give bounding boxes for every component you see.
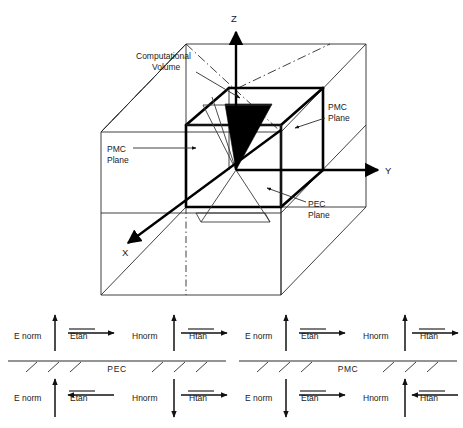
boundary-surface-label: PEC bbox=[107, 364, 126, 374]
symmetry-plane-diagram: Z Y X Computational Volume PMC Plane PMC… bbox=[0, 0, 463, 428]
pmc-plane-left-label-line1: PMC bbox=[107, 144, 126, 154]
boundary-hatch-mark bbox=[26, 362, 37, 372]
pec-boundary-panel: PECE normEtanHnormHtanE normEtanHnormHta… bbox=[8, 315, 227, 417]
field-label-hnorm: Hnorm bbox=[132, 393, 158, 403]
outer-box-edge-br bbox=[281, 207, 366, 295]
field-label-hnorm: Hnorm bbox=[363, 331, 389, 341]
lower-cone-left-edge bbox=[201, 170, 236, 222]
pmc-plane-left-label-line2: Plane bbox=[107, 155, 129, 165]
pmc-plane-right-label-line2: Plane bbox=[328, 113, 350, 123]
axis-x bbox=[128, 130, 281, 243]
field-label-enorm: E norm bbox=[14, 393, 41, 403]
axis-label-z: Z bbox=[231, 13, 237, 24]
boundary-hatch-mark bbox=[70, 362, 81, 372]
boundary-hatch-mark bbox=[152, 362, 163, 372]
field-row-above: E normEtanHnormHtan bbox=[245, 315, 458, 351]
field-label-enorm: E norm bbox=[14, 331, 41, 341]
lower-cone-right-edge bbox=[236, 170, 270, 222]
field-label-enorm: E norm bbox=[245, 393, 272, 403]
bicone-source bbox=[196, 97, 272, 222]
figure-root: Z Y X Computational Volume PMC Plane PMC… bbox=[0, 0, 463, 428]
inner-cube-edge-top-right bbox=[281, 88, 323, 125]
axis-label-x: X bbox=[122, 247, 129, 258]
pec-plane-label-line2: Plane bbox=[308, 210, 330, 220]
source-filled-cone-quadrant bbox=[225, 104, 272, 170]
boundary-hatch-mark bbox=[196, 362, 207, 372]
pmc-boundary-panel: PMCE normEtanHnormHtanE normEtanHnormHta… bbox=[239, 315, 458, 417]
boundary-hatch-mark bbox=[257, 362, 268, 372]
computational-volume-label-line1: Computational bbox=[136, 51, 191, 61]
outer-box-edge-bl bbox=[101, 207, 186, 295]
pmc-plane-right-leader bbox=[295, 118, 325, 128]
boundary-surface-label: PMC bbox=[338, 364, 359, 374]
field-label-enorm: E norm bbox=[245, 331, 272, 341]
dashdot-top-right bbox=[238, 44, 330, 88]
boundary-hatch-mark bbox=[383, 362, 394, 372]
pmc-plane-right-label-line1: PMC bbox=[328, 102, 347, 112]
boundary-hatch-mark bbox=[279, 362, 290, 372]
field-row-below: E normEtanHnormHtan bbox=[14, 379, 227, 417]
boundary-hatch-mark bbox=[427, 362, 438, 372]
coordinate-axes: Z Y X bbox=[122, 13, 392, 258]
boundary-hatch-mark bbox=[174, 362, 185, 372]
pec-plane-label-line1: PEC bbox=[308, 199, 325, 209]
field-label-hnorm: Hnorm bbox=[363, 393, 389, 403]
field-label-hnorm: Hnorm bbox=[132, 331, 158, 341]
inner-cube-edge-top-left bbox=[186, 88, 229, 125]
axis-label-y: Y bbox=[385, 165, 392, 176]
computational-volume-leader bbox=[196, 72, 240, 98]
boundary-hatch-mark bbox=[405, 362, 416, 372]
field-row-above: E normEtanHnormHtan bbox=[14, 315, 227, 351]
callout-pmc-plane-left: PMC Plane bbox=[107, 144, 196, 165]
field-row-below: E normEtanHnormHtan bbox=[245, 379, 458, 417]
boundary-hatch-mark bbox=[48, 362, 59, 372]
lower-cone-base-left-link bbox=[196, 213, 201, 222]
lower-cone-base-right-link bbox=[265, 213, 270, 222]
computational-volume-label-line2: Volume bbox=[152, 62, 181, 72]
boundary-hatch-mark bbox=[301, 362, 312, 372]
